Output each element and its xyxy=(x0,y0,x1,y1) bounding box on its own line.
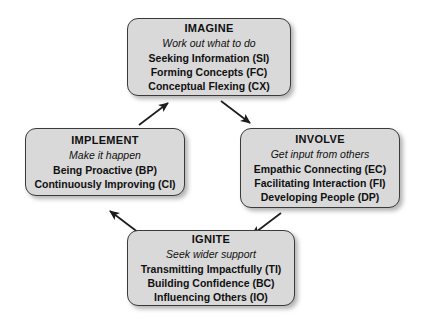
node-involve-title: INVOLVE xyxy=(295,132,345,146)
arrow-implement-to-imagine xyxy=(139,103,168,125)
node-implement-subtitle: Make it happen xyxy=(69,148,141,162)
node-involve-subtitle: Get input from others xyxy=(271,147,370,161)
node-ignite-item-1: Transmitting Impactfully (TI) xyxy=(141,262,282,276)
node-implement-item-1: Being Proactive (BP) xyxy=(53,163,157,177)
node-ignite-subtitle: Seek wider support xyxy=(166,247,256,261)
node-ignite-item-2: Building Confidence (BC) xyxy=(147,276,274,290)
node-imagine-item-2: Forming Concepts (FC) xyxy=(151,65,268,79)
node-imagine-subtitle: Work out what to do xyxy=(162,36,255,50)
node-imagine-title: IMAGINE xyxy=(184,21,233,35)
arrow-imagine-to-involve xyxy=(221,101,250,123)
node-involve[interactable]: INVOLVE Get input from others Empathic C… xyxy=(240,128,400,208)
node-involve-item-1: Empathic Connecting (EC) xyxy=(254,162,386,176)
node-imagine-item-3: Conceptual Flexing (CX) xyxy=(148,79,269,93)
node-implement[interactable]: IMPLEMENT Make it happen Being Proactive… xyxy=(25,128,185,196)
node-ignite-item-3: Influencing Others (IO) xyxy=(154,290,268,304)
node-implement-item-2: Continuously Improving (CI) xyxy=(34,177,175,191)
node-imagine[interactable]: IMAGINE Work out what to do Seeking Info… xyxy=(127,18,291,96)
node-ignite-title: IGNITE xyxy=(192,232,230,246)
node-implement-title: IMPLEMENT xyxy=(71,133,138,147)
diagram-canvas: IMAGINE Work out what to do Seeking Info… xyxy=(0,0,422,330)
node-involve-item-3: Developing People (DP) xyxy=(261,190,379,204)
node-involve-item-2: Facilitating Interaction (FI) xyxy=(254,176,385,190)
node-imagine-item-1: Seeking Information (SI) xyxy=(149,51,270,65)
node-ignite[interactable]: IGNITE Seek wider support Transmitting I… xyxy=(127,230,295,306)
